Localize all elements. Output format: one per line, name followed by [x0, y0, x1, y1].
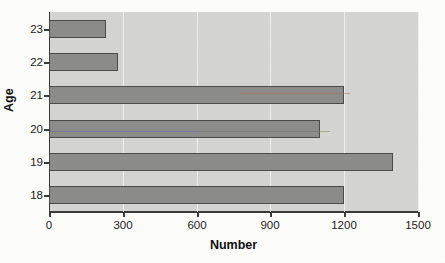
y-tick-label-22: 22: [30, 56, 43, 68]
gridline-600: [197, 12, 198, 212]
y-tick-21: [44, 95, 50, 97]
scan-artifact-line-1: [240, 93, 350, 94]
y-tick-20: [44, 129, 50, 131]
x-tick-0: [49, 212, 51, 217]
y-tick-label-21: 21: [30, 89, 43, 101]
x-tick-1500: [418, 212, 420, 217]
y-tick-18: [44, 195, 50, 197]
y-tick-label-18: 18: [30, 189, 43, 201]
bar-age-19: [49, 153, 393, 171]
x-tick-600: [197, 212, 199, 217]
scan-artifact-line-3: [200, 131, 330, 132]
y-tick-label-20: 20: [30, 123, 43, 135]
y-tick-22: [44, 62, 50, 64]
x-tick-label-1500: 1500: [405, 219, 431, 231]
y-tick-19: [44, 162, 50, 164]
bar-age-23: [49, 20, 106, 38]
y-tick-label-19: 19: [30, 156, 43, 168]
x-tick-900: [270, 212, 272, 217]
gridline-900: [270, 12, 271, 212]
gridline-300: [123, 12, 124, 212]
x-tick-label-600: 600: [187, 219, 206, 231]
x-tick-1200: [344, 212, 346, 217]
x-axis-line: [49, 211, 419, 213]
x-tick-300: [123, 212, 125, 217]
x-tick-label-900: 900: [260, 219, 279, 231]
x-tick-label-0: 0: [46, 219, 52, 231]
x-tick-label-300: 300: [113, 219, 132, 231]
plot-area: [49, 12, 418, 212]
bar-chart-figure: 030060090012001500 232221201918 Number A…: [0, 0, 445, 263]
y-tick-label-23: 23: [30, 23, 43, 35]
gridline-1500: [418, 12, 419, 212]
gridline-1200: [344, 12, 345, 212]
bar-age-22: [49, 53, 118, 71]
y-axis-title: Age: [2, 88, 16, 112]
bar-age-18: [49, 186, 344, 204]
x-tick-label-1200: 1200: [331, 219, 357, 231]
y-tick-23: [44, 29, 50, 31]
x-axis-title: Number: [49, 238, 418, 252]
bar-age-21: [49, 86, 344, 104]
bar-age-20: [49, 120, 320, 138]
